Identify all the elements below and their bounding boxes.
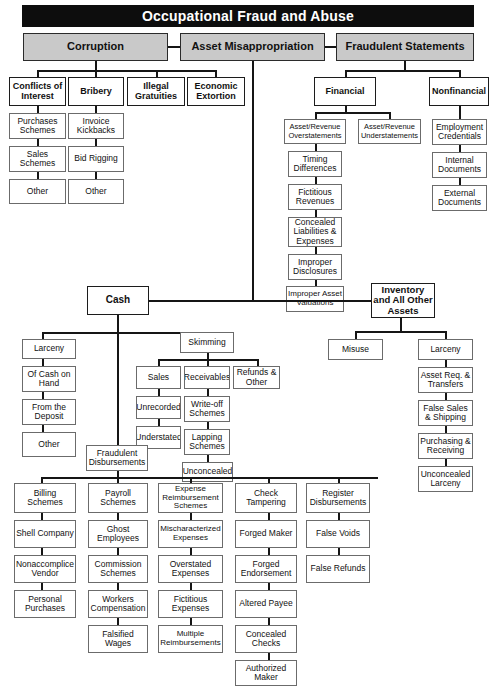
link-inv-larceny-2	[445, 393, 447, 400]
link-financial-bus	[315, 112, 390, 114]
node-shell-company-label: Shell Company	[16, 529, 74, 538]
node-asset-revenue-understatements-label: Asset/Revenue Understatements	[360, 123, 419, 139]
node-from-the-deposit-label: From the Deposit	[24, 403, 74, 421]
node-workers-compensation-label: Workers Compensation	[90, 595, 146, 613]
link-expense-3	[190, 583, 192, 590]
node-bribery-other: Other	[68, 179, 124, 204]
node-bid-rigging: Bid Rigging	[68, 146, 124, 172]
node-overstated-expenses-label: Overstated Expenses	[160, 560, 221, 578]
node-asset-req-transfers-label: Asset Req. & Transfers	[420, 371, 471, 389]
node-shell-company: Shell Company	[14, 520, 76, 548]
link-over-3	[315, 210, 317, 217]
node-cash-label: Cash	[106, 295, 130, 306]
node-external-documents: External Documents	[432, 185, 487, 211]
node-forged-endorsement-label: Forged Endorsement	[237, 560, 295, 578]
node-false-voids-label: False Voids	[316, 529, 360, 538]
node-concealed-checks-label: Concealed Checks	[237, 630, 295, 648]
node-altered-payee: Altered Payee	[235, 590, 297, 618]
node-conflicts-of-interest: Conflicts of Interest	[9, 77, 66, 106]
node-mischaracterized-expenses: Mischaracterized Expenses	[158, 520, 223, 548]
link-fs-bus	[345, 70, 461, 72]
node-bid-rigging-label: Bid Rigging	[74, 154, 117, 163]
link-billing-1	[41, 513, 43, 520]
node-skimming-sales: Sales	[136, 366, 181, 389]
node-improper-asset-valuations-label: Improper Asset Valuations	[288, 290, 342, 307]
node-of-cash-on-hand-label: Of Cash on Hand	[24, 370, 74, 388]
link-corruption-drop-4	[215, 70, 217, 77]
node-fictitious-expenses: Fictitious Expenses	[158, 590, 223, 618]
node-employment-credentials: Employment Credentials	[432, 119, 487, 145]
node-unconcealed-larceny-label: Unconcealed Larceny	[420, 470, 471, 488]
node-purchasing-receiving-label: Purchasing & Receiving	[420, 437, 471, 455]
node-bribery-label: Bribery	[80, 87, 112, 97]
link-payroll-2	[117, 548, 119, 555]
node-of-cash-on-hand: Of Cash on Hand	[22, 366, 76, 392]
link-corruption-to-asset	[168, 46, 180, 48]
node-expense-reimbursement-schemes: Expense Reimbursement Schemes	[158, 483, 223, 513]
node-personal-purchases: Personal Purchases	[14, 590, 76, 618]
node-from-the-deposit: From the Deposit	[22, 399, 76, 425]
node-inventory-misuse-label: Misuse	[342, 345, 369, 354]
node-refunds-and-other-label: Refunds & Other	[235, 368, 278, 386]
link-corruption-drop-1	[37, 70, 39, 77]
link-cash-drop-larceny	[42, 332, 44, 339]
link-expense-1	[190, 513, 192, 520]
node-corruption-label: Corruption	[67, 41, 124, 53]
node-asset-req-transfers: Asset Req. & Transfers	[418, 367, 473, 393]
node-fraudulent-statements: Fraudulent Statements	[336, 33, 474, 61]
node-cash-larceny-label: Larceny	[34, 344, 64, 353]
node-skimming: Skimming	[180, 332, 234, 353]
link-bribery-3	[95, 172, 97, 179]
node-fraudulent-disbursements: Fraudulent Disbursements	[86, 445, 148, 471]
node-sales-schemes-label: Sales Schemes	[11, 150, 64, 168]
node-asset-revenue-understatements: Asset/Revenue Understatements	[358, 119, 421, 144]
node-fraudulent-statements-label: Fraudulent Statements	[345, 41, 464, 53]
node-expense-reimbursement-schemes-label: Expense Reimbursement Schemes	[160, 485, 221, 511]
link-corruption-bus	[37, 70, 216, 72]
node-forged-maker: Forged Maker	[235, 520, 297, 548]
node-false-refunds: False Refunds	[306, 555, 370, 583]
node-multiple-reimbursements-label: Multiple Reimbursements	[160, 630, 221, 647]
node-employment-credentials-label: Employment Credentials	[434, 123, 485, 141]
link-payroll-1	[117, 513, 119, 520]
node-internal-documents: Internal Documents	[432, 152, 487, 178]
link-payroll-3	[117, 583, 119, 590]
node-bribery-other-label: Other	[85, 187, 106, 196]
node-inventory-larceny: Larceny	[418, 339, 473, 360]
node-overstated-expenses: Overstated Expenses	[158, 555, 223, 583]
node-authorized-maker: Authorized Maker	[235, 660, 297, 686]
node-sales-schemes: Sales Schemes	[9, 146, 66, 172]
node-nonaccomplice-vendor: Nonaccomplice Vendor	[14, 555, 76, 583]
node-unconcealed-larceny: Unconcealed Larceny	[418, 466, 473, 492]
link-check-4	[268, 618, 270, 625]
node-check-tampering-label: Check Tampering	[237, 489, 295, 507]
node-register-disbursements-label: Register Disbursements	[308, 489, 368, 507]
node-skimming-receivables-label: Receivables	[184, 373, 230, 382]
node-mischaracterized-expenses-label: Mischaracterized Expenses	[160, 525, 221, 542]
node-timing-differences: Timing Differences	[288, 151, 342, 177]
node-bribery: Bribery	[68, 77, 124, 106]
link-skim-drop-sales	[158, 359, 160, 366]
link-inv-larceny-3	[445, 426, 447, 433]
node-cash-larceny-other-label: Other	[38, 440, 59, 449]
link-skim-recv-3	[207, 455, 209, 462]
node-unrecorded-label: Unrecorded	[136, 403, 180, 412]
link-corruption-drop-3	[156, 70, 158, 77]
node-concealed-checks: Concealed Checks	[235, 625, 297, 653]
diagram-title-banner: Occupational Fraud and Abuse	[22, 5, 474, 27]
link-bribery-2	[95, 139, 97, 146]
link-register-2	[338, 548, 340, 555]
link-payroll-4	[117, 618, 119, 625]
link-skim-drop-refunds	[257, 359, 259, 366]
link-bribery-1	[95, 106, 97, 113]
node-ghost-employees: Ghost Employees	[88, 520, 148, 548]
link-billing-3	[41, 583, 43, 590]
node-nonfinancial-label: Nonfinancial	[432, 87, 486, 97]
node-improper-disclosures-label: Improper Disclosures	[290, 258, 340, 276]
node-improper-asset-valuations: Improper Asset Valuations	[286, 286, 344, 312]
link-asset-spine	[252, 61, 254, 301]
node-write-off-schemes: Write-off Schemes	[184, 396, 230, 422]
node-inventory-larceny-label: Larceny	[430, 345, 460, 354]
node-multiple-reimbursements: Multiple Reimbursements	[158, 625, 223, 653]
node-purchases-schemes-label: Purchases Schemes	[11, 117, 64, 135]
